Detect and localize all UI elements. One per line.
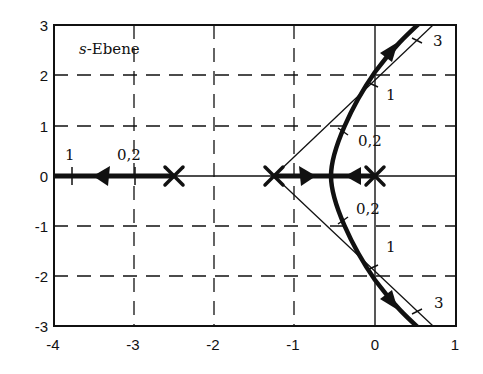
- svg-text:2: 2: [40, 67, 48, 84]
- svg-text:0,2: 0,2: [356, 200, 380, 218]
- arrow-left-icon: [345, 167, 361, 185]
- svg-text:0: 0: [371, 336, 379, 353]
- svg-text:0,2: 0,2: [358, 132, 382, 150]
- svg-text:0: 0: [40, 168, 48, 185]
- svg-text:3: 3: [434, 294, 444, 312]
- svg-text:1: 1: [451, 336, 459, 353]
- y-axis-ticks: 3 2 1 0 -1 -2 -3: [35, 17, 48, 335]
- svg-text:1: 1: [40, 118, 48, 135]
- svg-text:3: 3: [433, 32, 443, 50]
- gain-labels: 1 0,2 0,2 1 3 0,2 1 3: [65, 32, 444, 312]
- svg-text:3: 3: [40, 17, 48, 34]
- svg-text:-1: -1: [286, 336, 299, 353]
- svg-text:-3: -3: [126, 336, 139, 353]
- arrow-right-icon: [299, 166, 316, 186]
- arrow-left-icon: [93, 166, 110, 186]
- svg-text:1: 1: [386, 238, 396, 256]
- svg-text:-2: -2: [206, 336, 219, 353]
- x-axis-ticks: -4 -3 -2 -1 0 1: [46, 336, 459, 353]
- svg-text:1: 1: [65, 146, 75, 164]
- svg-text:-2: -2: [35, 268, 48, 285]
- svg-text:0,2: 0,2: [117, 146, 141, 164]
- svg-text:-1: -1: [35, 218, 48, 235]
- svg-text:-3: -3: [35, 318, 48, 335]
- svg-text:-4: -4: [46, 336, 59, 353]
- plane-label: s-Ebene: [79, 40, 140, 58]
- root-locus-plot: s-Ebene 1 0,2 0,2 1 3 0,2 1 3 3 2 1 0 -1…: [0, 0, 483, 374]
- svg-text:1: 1: [386, 86, 396, 104]
